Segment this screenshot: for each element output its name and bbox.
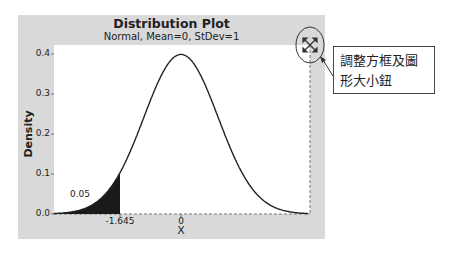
arrow-head-icon [320,56,326,63]
callout-box: 調整方框及圖 形大小鈕 [333,46,435,94]
resize-handle-icon [303,38,317,52]
chart-canvas [0,0,454,253]
shaded-area-label: 0.05 [70,189,90,199]
callout-line-2: 形大小鈕 [340,71,428,91]
density-curve [54,54,309,213]
callout-line-1: 調整方框及圖 [340,51,428,71]
callout-arrow [323,60,333,76]
y-axis-ticks [51,54,54,214]
